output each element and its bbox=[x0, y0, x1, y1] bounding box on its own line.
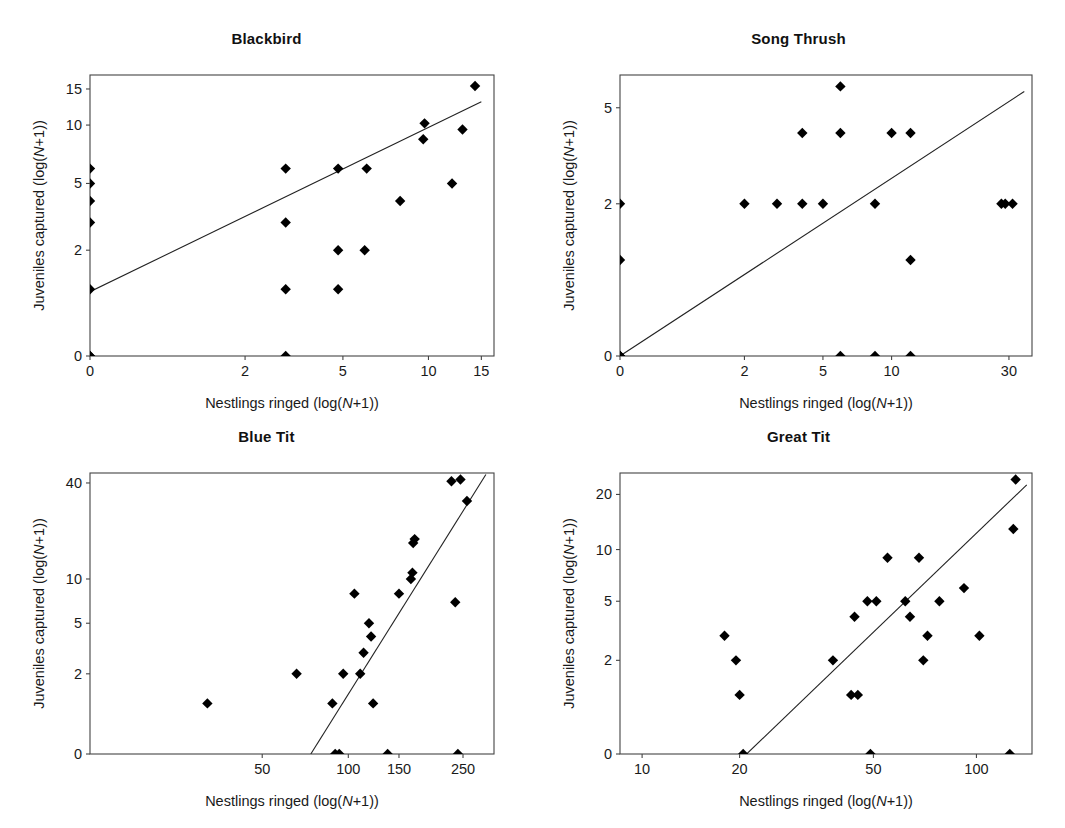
y-axis: 0251040 bbox=[66, 475, 90, 762]
data-point bbox=[419, 118, 429, 128]
x-tick-label: 250 bbox=[451, 761, 475, 777]
data-point bbox=[1007, 199, 1017, 209]
data-point bbox=[615, 255, 625, 265]
data-point bbox=[835, 128, 845, 138]
data-point bbox=[349, 588, 359, 598]
scatter-plot: 501001502500251040Nestlings ringed (log(… bbox=[0, 428, 533, 828]
data-point bbox=[739, 199, 749, 209]
y-tick-label: 5 bbox=[604, 593, 612, 609]
data-point bbox=[797, 199, 807, 209]
data-point bbox=[905, 612, 915, 622]
data-point bbox=[85, 196, 95, 206]
data-point bbox=[849, 612, 859, 622]
panel-title: Blue Tit bbox=[0, 428, 533, 445]
y-axis: 025 bbox=[604, 100, 620, 364]
data-point bbox=[974, 631, 984, 641]
plot-frame bbox=[620, 75, 1032, 356]
regression-line bbox=[311, 475, 486, 754]
figure-container: Blackbird02510150251015Nestlings ringed … bbox=[0, 0, 1065, 828]
data-point bbox=[853, 690, 863, 700]
y-tick-label: 5 bbox=[74, 615, 82, 631]
y-tick-label: 0 bbox=[604, 746, 612, 762]
data-point bbox=[359, 245, 369, 255]
y-tick-label: 40 bbox=[66, 475, 82, 491]
data-point bbox=[202, 698, 212, 708]
y-tick-label: 15 bbox=[66, 81, 82, 97]
data-point bbox=[333, 163, 343, 173]
data-point bbox=[918, 655, 928, 665]
data-points bbox=[202, 474, 472, 759]
x-tick-label: 30 bbox=[1001, 363, 1017, 379]
data-point bbox=[1010, 474, 1020, 484]
x-tick-label: 10 bbox=[634, 761, 650, 777]
data-point bbox=[455, 474, 465, 484]
y-axis: 0251020 bbox=[596, 486, 620, 762]
data-point bbox=[382, 749, 392, 759]
data-point bbox=[361, 163, 371, 173]
y-axis-title: Juveniles captured (log(N+1)) bbox=[31, 518, 47, 709]
regression-line bbox=[747, 485, 1027, 754]
y-tick-label: 10 bbox=[66, 571, 82, 587]
data-point bbox=[835, 81, 845, 91]
x-tick-label: 100 bbox=[336, 761, 360, 777]
x-axis-title: Nestlings ringed (log(N+1)) bbox=[739, 395, 913, 411]
data-point bbox=[862, 596, 872, 606]
data-point bbox=[394, 588, 404, 598]
data-point bbox=[719, 631, 729, 641]
data-point bbox=[797, 128, 807, 138]
data-point bbox=[368, 698, 378, 708]
data-point bbox=[1005, 749, 1015, 759]
data-point bbox=[870, 199, 880, 209]
x-tick-label: 0 bbox=[86, 363, 94, 379]
x-tick-label: 10 bbox=[420, 363, 436, 379]
regression-line bbox=[620, 91, 1024, 356]
data-point bbox=[828, 655, 838, 665]
data-point bbox=[364, 618, 374, 628]
y-axis-title: Juveniles captured (log(N+1)) bbox=[561, 120, 577, 311]
data-point bbox=[871, 596, 881, 606]
data-point bbox=[905, 255, 915, 265]
data-point bbox=[470, 81, 480, 91]
data-point bbox=[772, 199, 782, 209]
x-tick-label: 10 bbox=[884, 363, 900, 379]
data-point bbox=[280, 163, 290, 173]
data-point bbox=[453, 749, 463, 759]
data-point bbox=[327, 698, 337, 708]
data-point bbox=[818, 199, 828, 209]
y-tick-label: 2 bbox=[604, 652, 612, 668]
data-point bbox=[882, 552, 892, 562]
x-tick-label: 5 bbox=[819, 363, 827, 379]
x-axis-title: Nestlings ringed (log(N+1)) bbox=[205, 793, 379, 809]
data-point bbox=[922, 631, 932, 641]
y-tick-label: 0 bbox=[74, 348, 82, 364]
y-tick-label: 2 bbox=[74, 242, 82, 258]
x-axis: 102050100 bbox=[634, 754, 989, 777]
plot-frame bbox=[90, 473, 494, 754]
data-point bbox=[333, 284, 343, 294]
data-point bbox=[446, 476, 456, 486]
data-point bbox=[865, 749, 875, 759]
x-axis: 50100150250 bbox=[254, 754, 475, 777]
panel-title: Song Thrush bbox=[532, 30, 1065, 47]
y-axis-title: Juveniles captured (log(N+1)) bbox=[31, 120, 47, 311]
x-axis-title: Nestlings ringed (log(N+1)) bbox=[205, 395, 379, 411]
data-point bbox=[457, 124, 467, 134]
data-point bbox=[731, 655, 741, 665]
y-tick-label: 20 bbox=[596, 486, 612, 502]
y-tick-label: 2 bbox=[604, 196, 612, 212]
data-point bbox=[291, 669, 301, 679]
data-point bbox=[447, 178, 457, 188]
y-tick-label: 5 bbox=[604, 100, 612, 116]
x-tick-label: 0 bbox=[616, 363, 624, 379]
y-tick-label: 5 bbox=[74, 175, 82, 191]
x-tick-label: 150 bbox=[387, 761, 411, 777]
panel-title: Blackbird bbox=[0, 30, 533, 47]
y-tick-label: 10 bbox=[596, 542, 612, 558]
data-point bbox=[886, 128, 896, 138]
x-tick-label: 20 bbox=[732, 761, 748, 777]
data-point bbox=[734, 690, 744, 700]
data-point bbox=[85, 284, 95, 294]
y-axis: 0251015 bbox=[66, 81, 90, 364]
data-point bbox=[905, 351, 915, 361]
chart-panel-great-tit: Great Tit1020501000251020Nestlings ringe… bbox=[532, 428, 1065, 828]
